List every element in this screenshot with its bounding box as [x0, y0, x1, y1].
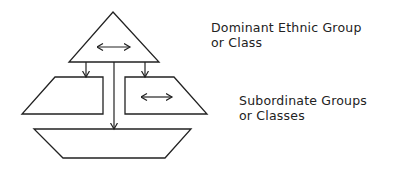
dominant-label-line2: or Class — [211, 35, 362, 50]
dominant-label-line1: Dominant Ethnic Group — [211, 20, 362, 35]
subordinate-label-line2: or Classes — [239, 108, 367, 123]
dominant-label: Dominant Ethnic Group or Class — [211, 20, 362, 50]
subordinate-label: Subordinate Groups or Classes — [239, 93, 367, 123]
dominant-triangle — [69, 12, 159, 62]
bottom-subordinate-trapezoid — [34, 129, 191, 158]
subordinate-label-line1: Subordinate Groups — [239, 93, 367, 108]
left-subordinate-trapezoid — [22, 77, 103, 114]
right-subordinate-trapezoid — [125, 77, 207, 114]
